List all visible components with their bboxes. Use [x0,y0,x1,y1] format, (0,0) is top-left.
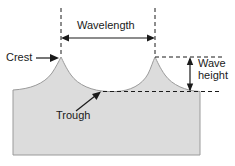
wave-height-label-line2: height [198,69,228,81]
crest-label: Crest [6,52,32,64]
wave-height-label: Wave height [198,58,234,81]
wave-height-double-arrow [187,57,193,92]
wave-diagram: Wavelength Crest Trough Wave height [0,0,235,166]
water-body-shape [13,57,200,155]
wavelength-label: Wavelength [77,20,135,32]
wavelength-double-arrow [61,35,155,42]
trough-label: Trough [56,110,90,122]
crest-pointer-arrow [36,54,59,62]
wave-height-label-line1: Wave [198,57,226,69]
